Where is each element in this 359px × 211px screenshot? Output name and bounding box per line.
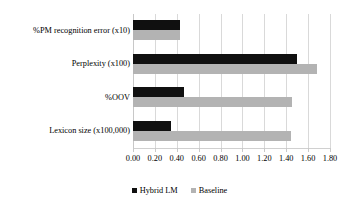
- bar-baseline: [133, 131, 291, 141]
- tick-mark: [264, 148, 265, 152]
- bar-hybrid-lm: [133, 121, 171, 131]
- tick-mark: [133, 148, 134, 152]
- plot-area: [133, 14, 330, 148]
- bar-baseline: [133, 30, 180, 40]
- tick-mark: [286, 148, 287, 152]
- gridline: [330, 14, 331, 148]
- tick-mark: [155, 148, 156, 152]
- chart-legend: Hybrid LMBaseline: [0, 185, 359, 196]
- x-axis-line: [133, 148, 330, 149]
- tick-mark: [177, 148, 178, 152]
- tick-mark: [330, 148, 331, 152]
- bar-hybrid-lm: [133, 20, 180, 30]
- tick-mark: [242, 148, 243, 152]
- bar-hybrid-lm: [133, 87, 184, 97]
- legend-item[interactable]: Hybrid LM: [132, 185, 178, 196]
- gridline: [199, 14, 200, 148]
- gridline: [308, 14, 309, 148]
- tick-mark: [199, 148, 200, 152]
- tick-mark: [221, 148, 222, 152]
- legend-swatch-icon: [132, 188, 137, 193]
- bar-baseline: [133, 97, 292, 107]
- gridline: [221, 14, 222, 148]
- legend-label: Baseline: [199, 185, 228, 196]
- tick-mark: [308, 148, 309, 152]
- legend-item[interactable]: Baseline: [191, 185, 228, 196]
- category-label: %OOV: [0, 93, 130, 103]
- bar-hybrid-lm: [133, 54, 297, 64]
- category-label: %PM recognition error (x10): [0, 26, 130, 36]
- bar-chart: %PM recognition error (x10)Perplexity (x…: [0, 0, 359, 211]
- x-tick-label: 1.80: [313, 153, 347, 164]
- category-label: Lexicon size (x100,000): [0, 126, 130, 136]
- legend-swatch-icon: [191, 188, 196, 193]
- gridline: [286, 14, 287, 148]
- category-label: Perplexity (x100): [0, 59, 130, 69]
- bar-baseline: [133, 64, 317, 74]
- gridline: [264, 14, 265, 148]
- legend-label: Hybrid LM: [140, 185, 178, 196]
- gridline: [242, 14, 243, 148]
